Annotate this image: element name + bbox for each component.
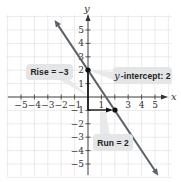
- x-tick-label: −3: [41, 100, 55, 110]
- y-tick-label: −1: [71, 105, 84, 115]
- x-tick-label: −4: [28, 100, 42, 110]
- y-axis-label: y: [83, 3, 90, 14]
- run-prefix: Run =: [97, 138, 124, 148]
- x-tick-label: 3: [125, 100, 131, 110]
- x-tick-label: 5: [152, 100, 158, 110]
- y-tick-label: −3: [71, 132, 85, 142]
- intercept-text: -intercept: 2: [121, 71, 171, 81]
- grid-lines: [6, 15, 172, 177]
- rise-callout: Rise = −3: [26, 64, 73, 80]
- intercept-variable: y: [114, 70, 119, 81]
- y-intercept-point: [85, 67, 90, 72]
- x-tick-label: 4: [139, 100, 145, 110]
- x-tick-label: 1: [99, 100, 105, 110]
- run-value: 2: [124, 138, 129, 148]
- rise-prefix: Rise =: [30, 67, 58, 77]
- y-intercept-callout: y-intercept: 2: [113, 67, 172, 84]
- x-tick-label: −2: [55, 100, 68, 110]
- x-tick-label: −5: [14, 100, 28, 110]
- x-axis-label: x: [171, 91, 177, 102]
- run-arrowhead-icon: [106, 108, 113, 113]
- rise-value: −3: [59, 67, 69, 77]
- y-tick-label: −5: [71, 159, 85, 169]
- x-axis-arrow-icon: [161, 95, 168, 100]
- y-tick-label: 4: [78, 38, 84, 48]
- y-tick-label: −4: [71, 146, 85, 156]
- y-tick-label: −2: [71, 119, 84, 129]
- y-axis-arrow-icon: [86, 14, 91, 21]
- y-tick-label: 2: [78, 65, 84, 75]
- run-end-point: [112, 107, 117, 112]
- coordinate-graph: −5−4−3−2−1134554321−1−2−3−4−5 x y: [0, 0, 181, 182]
- y-tick-label: 1: [78, 79, 84, 89]
- y-tick-label: 5: [78, 25, 84, 35]
- run-callout: Run = 2: [93, 134, 133, 151]
